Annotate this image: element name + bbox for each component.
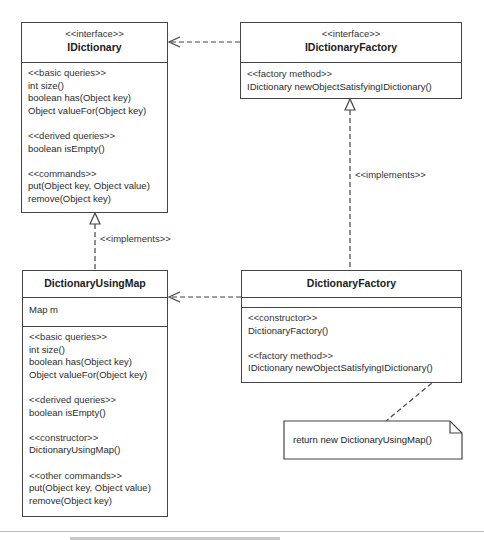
operation: boolean isEmpty() bbox=[29, 407, 161, 420]
group-other-commands: <<other commands>> put(Object key, Objec… bbox=[29, 470, 161, 508]
group-constructor: <<constructor>> DictionaryUsingMap() bbox=[29, 432, 161, 457]
operation: int size() bbox=[29, 344, 161, 357]
operation: boolean has(Object key) bbox=[29, 356, 161, 369]
class-name: DictionaryUsingMap bbox=[23, 277, 167, 289]
group-stereotype: <<basic queries>> bbox=[28, 67, 161, 80]
dependency-factory-to-dictionaryusingmap bbox=[169, 292, 241, 302]
group-stereotype: <<factory method>> bbox=[248, 350, 455, 363]
class-name: IDictionary bbox=[22, 41, 167, 53]
implements-label-left: <<implements>> bbox=[100, 233, 171, 244]
class-header: DictionaryFactory bbox=[242, 271, 461, 298]
class-name: DictionaryFactory bbox=[242, 277, 461, 289]
operation: remove(Object key) bbox=[29, 495, 161, 508]
operation: IDictionary newObjectSatisfyingIDictiona… bbox=[248, 362, 455, 375]
group-derived-queries: <<derived queries>> boolean isEmpty() bbox=[29, 394, 161, 419]
operation: DictionaryFactory() bbox=[248, 325, 455, 338]
operation: put(Object key, Object value) bbox=[28, 180, 161, 193]
class-idictionaryfactory: <<interface>> IDictionaryFactory <<facto… bbox=[240, 22, 462, 99]
group-derived-queries: <<derived queries>> boolean isEmpty() bbox=[28, 130, 161, 155]
class-dictionaryusingmap: DictionaryUsingMap Map m <<basic queries… bbox=[22, 270, 168, 517]
operations-section: <<factory method>> IDictionary newObject… bbox=[241, 63, 461, 97]
group-basic-queries: <<basic queries>> int size() boolean has… bbox=[29, 331, 161, 381]
group-stereotype: <<factory method>> bbox=[247, 68, 455, 81]
operation: int size() bbox=[28, 80, 161, 93]
group-constructor: <<constructor>> DictionaryFactory() bbox=[248, 312, 455, 337]
operation: boolean isEmpty() bbox=[28, 143, 161, 156]
realization-dictionaryusingmap-to-idictionary bbox=[90, 213, 100, 270]
group-factory-method: <<factory method>> IDictionary newObject… bbox=[247, 68, 455, 93]
operation: Object valueFor(Object key) bbox=[28, 105, 161, 118]
attribute: Map m bbox=[29, 304, 161, 317]
class-header: <<interface>> IDictionary bbox=[22, 23, 167, 63]
caption-divider bbox=[0, 531, 484, 532]
operation: put(Object key, Object value) bbox=[29, 482, 161, 495]
stereotype: <<interface>> bbox=[22, 28, 167, 39]
operations-section: <<basic queries>> int size() boolean has… bbox=[23, 327, 167, 511]
implements-label-right: <<implements>> bbox=[355, 169, 426, 180]
class-header: DictionaryUsingMap bbox=[23, 271, 167, 298]
operation: Object valueFor(Object key) bbox=[29, 369, 161, 382]
dependency-factory-to-idictionary bbox=[169, 37, 240, 47]
note-text: return new DictionaryUsingMap() bbox=[293, 434, 432, 445]
class-header: <<interface>> IDictionaryFactory bbox=[241, 23, 461, 63]
group-factory-method: <<factory method>> IDictionary newObject… bbox=[248, 350, 455, 375]
stereotype: <<interface>> bbox=[241, 28, 461, 39]
operations-section: <<constructor>> DictionaryFactory() <<fa… bbox=[242, 308, 461, 379]
operation: remove(Object key) bbox=[28, 193, 161, 206]
group-stereotype: <<derived queries>> bbox=[28, 130, 161, 143]
group-stereotype: <<other commands>> bbox=[29, 470, 161, 483]
operations-section: <<basic queries>> int size() boolean has… bbox=[22, 63, 167, 210]
group-stereotype: <<derived queries>> bbox=[29, 394, 161, 407]
class-idictionary: <<interface>> IDictionary <<basic querie… bbox=[21, 22, 168, 213]
attributes-section: Map m bbox=[23, 298, 167, 327]
group-stereotype: <<constructor>> bbox=[29, 432, 161, 445]
class-dictionaryfactory: DictionaryFactory <<constructor>> Dictio… bbox=[241, 270, 462, 383]
operation: DictionaryUsingMap() bbox=[29, 444, 161, 457]
group-stereotype: <<constructor>> bbox=[248, 312, 455, 325]
group-basic-queries: <<basic queries>> int size() boolean has… bbox=[28, 67, 161, 117]
class-name: IDictionaryFactory bbox=[241, 41, 461, 53]
group-stereotype: <<basic queries>> bbox=[29, 331, 161, 344]
operation: IDictionary newObjectSatisfyingIDictiona… bbox=[247, 81, 455, 94]
operation: boolean has(Object key) bbox=[28, 92, 161, 105]
group-stereotype: <<commands>> bbox=[28, 168, 161, 181]
group-commands: <<commands>> put(Object key, Object valu… bbox=[28, 168, 161, 206]
attributes-section-empty bbox=[242, 298, 461, 308]
realization-dictionaryfactory-to-idictionaryfactory bbox=[345, 99, 355, 270]
